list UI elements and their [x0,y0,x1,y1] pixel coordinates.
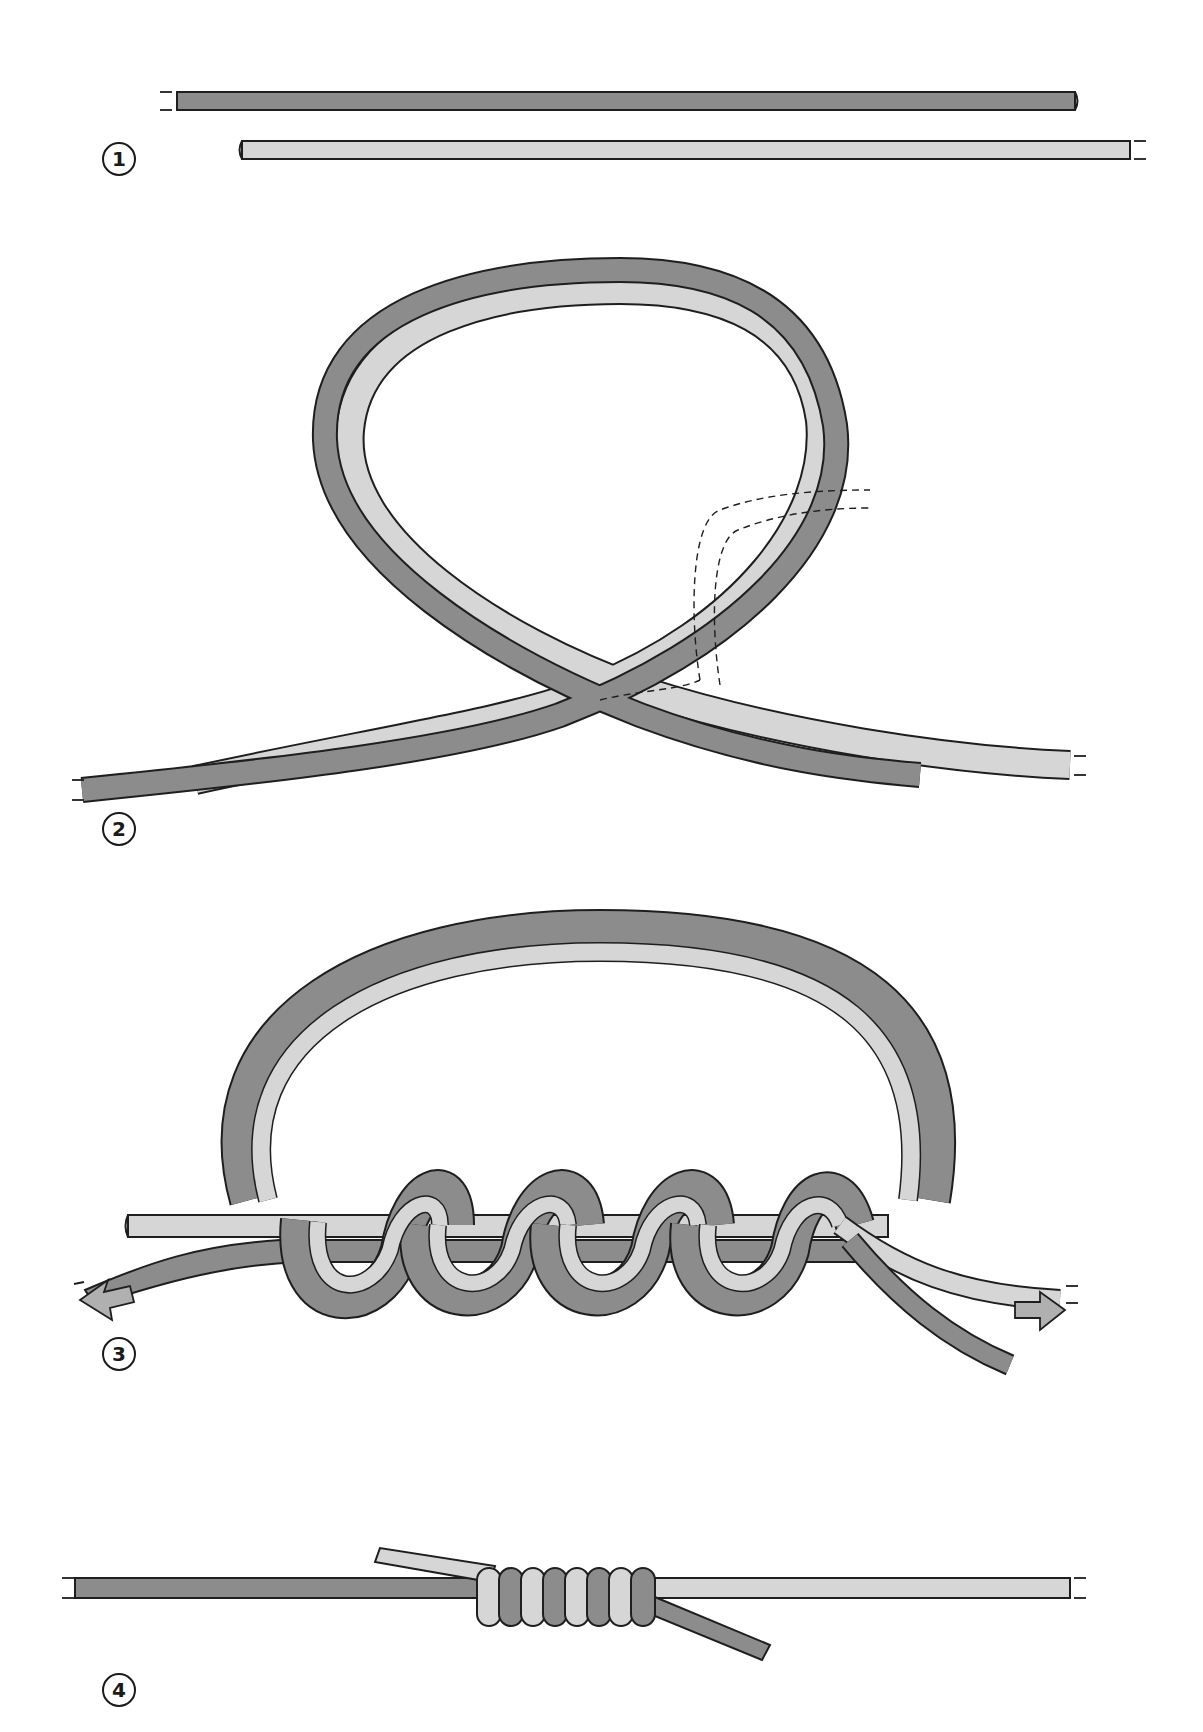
step-3-wraps [74,930,1078,1365]
knot-coils [477,1568,655,1626]
step-1-label: 1 [102,142,136,176]
knot-illustration: .ol{fill:none;stroke:#1e1e1e;stroke-line… [0,0,1203,1732]
knot-diagram: .ol{fill:none;stroke:#1e1e1e;stroke-line… [0,0,1203,1732]
step-3-label: 3 [102,1337,136,1371]
step-1-ropes [160,92,1146,159]
step-2-label: 2 [102,812,136,846]
step-2-loop [72,270,1086,800]
step-4-finished-knot [62,1548,1086,1660]
step-4-label: 4 [102,1673,136,1707]
